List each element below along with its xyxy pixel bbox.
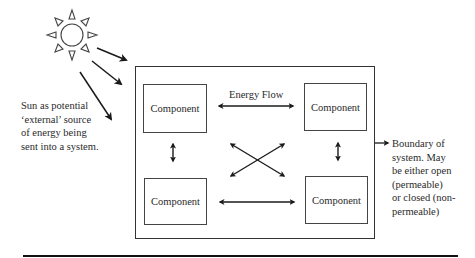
sun-caption: Sun as potential ‘external’ source of en… bbox=[21, 99, 99, 153]
sun-caption-line: sent into a system. bbox=[21, 140, 99, 154]
boundary-caption-line: (permeable) bbox=[392, 178, 456, 192]
component-label: Component bbox=[312, 195, 361, 206]
energy-flow-label: Energy Flow bbox=[229, 88, 283, 102]
component-label: Component bbox=[151, 103, 200, 114]
sun-caption-line: of energy being bbox=[21, 126, 99, 140]
component-bottom-right: Component bbox=[305, 176, 368, 224]
boundary-caption-line: or closed (non- bbox=[392, 191, 456, 205]
sun-caption-line: Sun as potential bbox=[21, 99, 99, 113]
sun-icon bbox=[47, 10, 97, 60]
boundary-caption-line: be either open bbox=[392, 164, 456, 178]
boundary-caption-line: permeable) bbox=[392, 205, 456, 219]
bottom-divider bbox=[23, 255, 458, 257]
sun-caption-line: ‘external’ source bbox=[21, 113, 99, 127]
component-label: Component bbox=[311, 102, 360, 113]
component-top-left: Component bbox=[143, 84, 207, 133]
component-bottom-left: Component bbox=[144, 178, 207, 225]
component-label: Component bbox=[151, 196, 200, 207]
boundary-caption-line: Boundary of bbox=[392, 137, 456, 151]
boundary-caption: Boundary of system. May be either open (… bbox=[392, 137, 456, 218]
component-top-right: Component bbox=[304, 83, 367, 131]
boundary-caption-line: system. May bbox=[392, 151, 456, 165]
